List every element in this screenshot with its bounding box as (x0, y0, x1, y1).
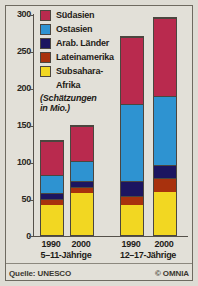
bar-segment-ostasien (41, 175, 63, 193)
bar-segment-ostasien (71, 161, 93, 181)
legend-swatch-arab-laender (40, 38, 51, 49)
x-tick-label: 1990 (116, 239, 146, 249)
y-tick-label: 100 (3, 158, 31, 167)
bar-segment-lateinamerika (154, 178, 176, 192)
x-tick-group: 2000 (149, 239, 179, 249)
legend-item-suedasien: Südasien (40, 10, 150, 23)
bar-segment-arab-l-nder (154, 165, 176, 178)
x-tick-group: 2000 (66, 239, 96, 249)
y-axis-labels: 300 250 200 150 100 50 0 (0, 0, 31, 250)
chart-footer: Quelle: UNESCO © OMNIA (9, 266, 189, 280)
x-tick-label: 2000 (66, 239, 96, 249)
legend-label: Subsahara- (56, 66, 103, 77)
bar-segment-lateinamerika (121, 196, 143, 205)
legend-item-lateinamerika: Lateinamerika (40, 52, 150, 65)
legend-item-ostasien: Ostasien (40, 24, 150, 37)
legend-swatch-ostasien (40, 24, 51, 35)
y-tick-label: 300 (3, 10, 31, 19)
bar-segment-ostasien (121, 104, 143, 181)
bar-511-1990[interactable] (40, 140, 64, 236)
bar-segment-subsahara-afrika (154, 192, 176, 235)
x-axis-labels: 1990 2000 1990 2000 5–11-Jährige 12–17-J… (33, 239, 188, 263)
bar-segment-s-dasien (154, 18, 176, 96)
legend-label: Südasien (56, 10, 94, 21)
bar-segment-subsahara-afrika (41, 205, 63, 235)
legend-swatch-suedasien (40, 10, 51, 21)
legend-item-arab-laender: Arab. Länder (40, 38, 150, 51)
bar-segment-s-dasien (71, 126, 93, 161)
bar-1217-2000[interactable] (153, 17, 177, 236)
y-tick-label: 50 (3, 195, 31, 204)
bar-segment-subsahara-afrika (71, 193, 93, 235)
chart-legend: Südasien Ostasien Arab. Länder Lateiname… (40, 10, 150, 113)
y-tick-label: 0 (3, 232, 31, 241)
legend-label: Ostasien (56, 24, 92, 35)
legend-label-continuation: Afrika (56, 80, 150, 90)
bar-segment-ostasien (154, 96, 176, 165)
bar-segment-arab-l-nder (121, 181, 143, 196)
chart-figure: 300 250 200 150 100 50 0 Südasien Ostasi… (0, 0, 198, 286)
x-axis-line (33, 236, 188, 237)
source-label: Quelle: UNESCO (9, 269, 71, 278)
legend-swatch-subsahara-afrika (40, 66, 51, 77)
y-tick-label: 200 (3, 84, 31, 93)
bar-segment-subsahara-afrika (121, 205, 143, 235)
footer-divider (6, 263, 192, 264)
x-tick-label: 2000 (149, 239, 179, 249)
legend-swatch-lateinamerika (40, 52, 51, 63)
x-group-label-5-11: 5–11-Jährige (33, 250, 99, 260)
legend-label: Lateinamerika (56, 52, 114, 63)
bar-segment-s-dasien (41, 141, 63, 175)
x-tick-label: 1990 (36, 239, 66, 249)
chart-note-line1: (Schätzungen (40, 93, 150, 103)
y-tick-label: 250 (3, 47, 31, 56)
x-group-label-12-17: 12–17-Jährige (112, 250, 184, 260)
legend-label: Arab. Länder (56, 38, 109, 49)
bar-511-2000[interactable] (70, 125, 94, 236)
x-tick-group: 1990 (36, 239, 66, 249)
legend-item-subsahara-afrika: Subsahara- (40, 66, 150, 79)
y-tick-label: 150 (3, 121, 31, 130)
copyright-label: © OMNIA (155, 269, 189, 278)
x-tick-group: 1990 (116, 239, 146, 249)
chart-note-line2: in Mio.) (40, 103, 150, 113)
